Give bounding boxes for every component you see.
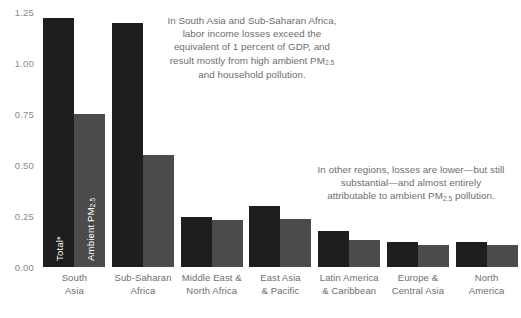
series-label-wrapper: Ambient PM2.5 xyxy=(74,157,105,267)
bar-ambient-pm25[interactable] xyxy=(212,220,243,267)
annotation-other-regions: In other regions, losses are lower—but s… xyxy=(316,163,506,204)
bar-group: Total*Ambient PM2.5 xyxy=(40,12,109,267)
bar-total[interactable]: Total* xyxy=(43,18,74,267)
series-label-ambient-pm25: Ambient PM2.5 xyxy=(84,198,95,261)
x-axis-category-label: Middle East &North Africa xyxy=(177,272,246,297)
bar-total[interactable] xyxy=(181,217,212,267)
series-label-wrapper: Total* xyxy=(43,157,74,267)
y-axis: 0.000.250.500.751.001.25 xyxy=(0,0,40,318)
bar-group xyxy=(452,12,521,267)
bar-chart: 0.000.250.500.751.001.25 Total*Ambient P… xyxy=(0,0,521,318)
bar-ambient-pm25[interactable] xyxy=(349,240,380,267)
bar-total[interactable] xyxy=(318,231,349,267)
x-axis-category-label: SouthAsia xyxy=(40,272,109,297)
y-axis-tick-label: 1.00 xyxy=(15,58,34,69)
y-axis-tick-label: 0.75 xyxy=(15,109,34,120)
x-axis-category-label: East Asia& Pacific xyxy=(246,272,315,297)
bar-ambient-pm25[interactable] xyxy=(280,219,311,267)
y-axis-tick-label: 0.00 xyxy=(15,262,34,273)
x-axis-category-label: Europe &Central Asia xyxy=(384,272,453,297)
bar-total[interactable] xyxy=(112,23,143,267)
y-axis-tick-label: 0.50 xyxy=(15,160,34,171)
bar-ambient-pm25[interactable] xyxy=(418,245,449,267)
series-label-total: Total* xyxy=(53,236,64,261)
x-axis-labels: SouthAsiaSub-SaharanAfricaMiddle East &N… xyxy=(40,272,521,318)
bar-ambient-pm25[interactable] xyxy=(143,155,174,267)
x-axis-category-label: Sub-SaharanAfrica xyxy=(109,272,178,297)
annotation-south-asia-subsaharan: In South Asia and Sub-Saharan Africa, la… xyxy=(166,14,338,81)
y-axis-tick-label: 0.25 xyxy=(15,211,34,222)
y-axis-tick-label: 1.25 xyxy=(15,7,34,18)
bar-ambient-pm25[interactable]: Ambient PM2.5 xyxy=(74,114,105,267)
x-axis-category-label: Latin America& Caribbean xyxy=(315,272,384,297)
axis-baseline xyxy=(40,267,521,268)
bar-total[interactable] xyxy=(387,242,418,268)
bar-total[interactable] xyxy=(249,206,280,267)
bar-total[interactable] xyxy=(456,242,487,268)
bar-group xyxy=(384,12,453,267)
bar-ambient-pm25[interactable] xyxy=(487,245,518,267)
x-axis-category-label: NorthAmerica xyxy=(452,272,521,297)
